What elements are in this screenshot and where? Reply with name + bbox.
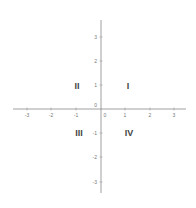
y-tick-label: -2 <box>93 154 98 160</box>
quadrant-label-iii: III <box>75 128 83 138</box>
y-tick-label: 3 <box>94 34 97 40</box>
x-tick-label: -3 <box>25 112 30 118</box>
x-tick-label: -1 <box>74 112 79 118</box>
quadrant-label-iv: IV <box>125 128 134 138</box>
x-tick-labels: -3 -2 -1 1 2 3 0 <box>25 112 176 118</box>
y-tick-labels: 3 2 1 -1 -2 -3 0 <box>93 34 98 185</box>
x-tick-label: 2 <box>149 112 152 118</box>
quadrant-label-i: I <box>127 81 130 91</box>
x-tick-label: -2 <box>49 112 54 118</box>
origin-label-y: 0 <box>94 102 97 108</box>
x-tick-label: 3 <box>173 112 176 118</box>
y-tick-label: 2 <box>94 58 97 64</box>
x-tick-label: 1 <box>124 112 127 118</box>
y-tick-label: 1 <box>94 82 97 88</box>
y-tick-label: -3 <box>93 179 98 185</box>
coordinate-plane: -3 -2 -1 1 2 3 0 3 2 1 -1 -2 -3 0 I II I… <box>0 0 196 208</box>
quadrant-labels: I II III IV <box>74 81 133 138</box>
origin-label: 0 <box>104 112 107 118</box>
quadrant-label-ii: II <box>74 81 79 91</box>
y-tick-label: -1 <box>93 130 98 136</box>
